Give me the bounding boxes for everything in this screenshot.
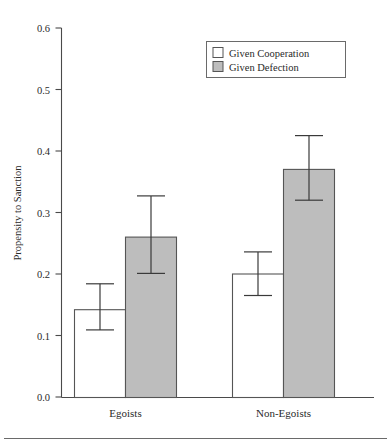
y-axis-title: Propensity to Sanction [12,165,23,261]
x-category-label-egoists: Egoists [109,407,141,419]
y-tick-label-0.4: 0.4 [37,146,51,157]
chart-legend: Given Cooperation Given Defection [207,42,346,78]
legend-label-given-defection: Given Defection [229,62,299,73]
x-category-label-non-egoists: Non-Egoists [256,407,311,419]
y-tick-label-0.1: 0.1 [37,331,50,342]
y-tick-label-0.5: 0.5 [37,85,50,96]
chart-figure: 0.6 0.5 0.4 0.3 0.2 0.1 0.0 Propensity t… [0,0,391,445]
legend-label-given-cooperation: Given Cooperation [229,48,310,59]
y-tick-label-0.6: 0.6 [37,23,50,34]
bar-non-egoists-given-defection [284,169,335,397]
legend-swatch-given-defection [213,62,223,72]
bar-chart-svg: 0.6 0.5 0.4 0.3 0.2 0.1 0.0 Propensity t… [0,0,391,445]
y-tick-label-0.0: 0.0 [37,392,50,403]
y-tick-label-0.2: 0.2 [37,269,50,280]
legend-swatch-given-cooperation [213,48,223,58]
y-tick-label-0.3: 0.3 [37,208,50,219]
